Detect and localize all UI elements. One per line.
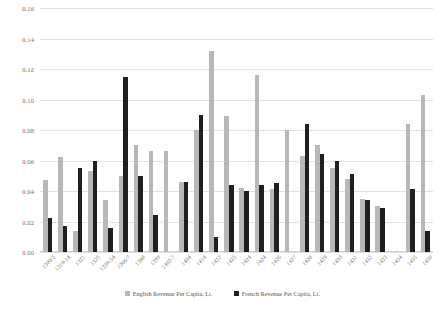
bar [63,226,68,252]
bar-group [342,8,357,252]
x-tick-label: 1366/7 [116,254,132,270]
x-tick-label: 1433 [376,254,388,266]
bar-group [267,8,282,252]
bar [410,189,415,252]
legend-entry[interactable]: English Revenue Per Capita, Lt. [125,290,212,297]
legend-swatch-icon [234,291,239,296]
bar-group [221,8,236,252]
bar-group [191,8,206,252]
bar [285,130,290,252]
bar [184,182,189,252]
x-tick-label: 1434 [391,254,403,266]
x-tick-label: 1432 [361,254,373,266]
bar-group [100,8,115,252]
bar [108,228,113,252]
y-tick-label: 0.06 [0,157,34,164]
x-tick-label: 1325 [89,254,101,266]
x-tick-label: 1427 [285,254,297,266]
x-axis-tick-labels: 1300/31310-14132113251338-541366/7138813… [40,254,433,294]
bar-group [146,8,161,252]
bar-group [40,8,55,252]
bar-group [403,8,418,252]
bar [229,185,234,252]
bar [214,237,219,252]
bar-group [373,8,388,252]
plot-area [40,8,433,252]
legend-label: French Revenue Per Capita, Lt. [242,290,320,297]
y-tick-label: 0.16 [0,5,34,12]
bar-group [312,8,327,252]
x-tick-label: 1388 [134,254,146,266]
y-tick-label: 0.08 [0,127,34,134]
bar [123,77,128,252]
bar-group [252,8,267,252]
legend-entry[interactable]: French Revenue Per Capita, Lt. [234,290,320,297]
x-tick-label: 1428 [300,254,312,266]
bar [48,218,53,252]
y-tick-label: 0.14 [0,35,34,42]
bar-group [297,8,312,252]
bar [320,154,325,252]
y-tick-label: 0.10 [0,96,34,103]
bar-series-container [40,8,433,252]
bar-group [418,8,433,252]
y-tick-label: 0.02 [0,218,34,225]
bar [199,115,204,252]
bar-group [327,8,342,252]
y-tick-label: 0.12 [0,66,34,73]
bar [421,95,426,252]
bar-chart: 0.000.020.040.060.080.100.120.140.16 130… [0,0,445,318]
bar [209,51,214,252]
chart-legend: English Revenue Per Capita, Lt.French Re… [0,290,445,297]
x-tick-label: 1422 [210,254,222,266]
bar-group [55,8,70,252]
legend-swatch-icon [125,291,130,296]
bar-group [357,8,372,252]
bar-group [70,8,85,252]
bar [425,231,430,252]
bar [259,185,264,252]
bar-group [282,8,297,252]
bar [78,168,83,252]
bar [138,176,143,252]
x-tick-label: 1430 [331,254,343,266]
x-tick-label: 1404 [179,254,191,266]
gridline [40,252,433,253]
x-tick-label: 1423 [225,254,237,266]
bar-group [161,8,176,252]
x-tick-label: 1429 [315,254,327,266]
x-tick-label: 1431 [346,254,358,266]
x-tick-label: 1402-7 [161,254,177,270]
bar-group [237,8,252,252]
bar-group [131,8,146,252]
bar [244,191,249,252]
bar [350,174,355,252]
x-tick-label: 1426 [270,254,282,266]
x-tick-label: 1424 [240,254,252,266]
x-tick-label: 1414 [195,254,207,266]
legend-label: English Revenue Per Capita, Lt. [133,290,213,297]
bar [365,200,370,252]
bar [164,151,169,252]
bar [93,161,98,253]
y-tick-label: 0.04 [0,188,34,195]
bar-group [388,8,403,252]
bar-group [116,8,131,252]
y-tick-label: 0.00 [0,249,34,256]
bar [153,215,158,252]
x-tick-label: 1436 [421,254,433,266]
bar [274,183,279,252]
bar-group [85,8,100,252]
bar-group [176,8,191,252]
bar [380,208,385,252]
x-tick-label: 1321 [74,254,86,266]
x-tick-label: 1424 [255,254,267,266]
x-tick-label: 1435 [406,254,418,266]
bar [335,161,340,253]
bar [305,124,310,252]
bar-group [206,8,221,252]
